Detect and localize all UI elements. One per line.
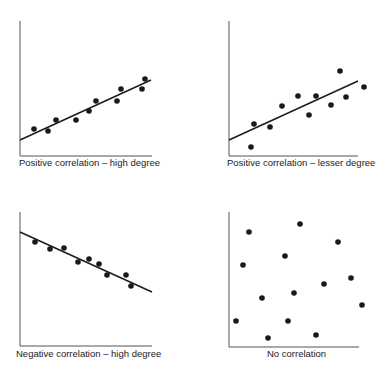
data-point: [321, 281, 327, 287]
data-point: [246, 229, 252, 235]
data-point: [337, 68, 343, 74]
panel-label-positive-lesser: Positive correlation – lesser degree: [227, 157, 375, 168]
data-point: [86, 256, 92, 262]
data-point: [139, 86, 145, 92]
data-point: [265, 335, 271, 341]
data-point: [279, 103, 285, 109]
data-point: [295, 93, 301, 99]
data-point: [297, 221, 303, 227]
panel-negative-high: [20, 212, 152, 346]
data-point: [123, 272, 129, 278]
data-point: [86, 108, 92, 114]
data-point: [251, 121, 257, 127]
data-point: [285, 318, 291, 324]
panel-positive-high: [20, 21, 152, 156]
data-point: [348, 275, 354, 281]
data-point: [45, 128, 51, 134]
panel-label-positive-high: Positive correlation – high degree: [19, 157, 160, 168]
data-point: [291, 290, 297, 296]
data-point: [233, 318, 239, 324]
data-point: [96, 261, 102, 267]
data-point: [313, 332, 319, 338]
data-point: [47, 246, 53, 252]
data-point: [93, 98, 99, 104]
data-point: [61, 245, 67, 251]
data-point: [335, 239, 341, 245]
data-point: [104, 272, 110, 278]
data-point: [313, 93, 319, 99]
data-point: [128, 283, 134, 289]
data-point: [359, 302, 365, 308]
data-point: [259, 295, 265, 301]
data-point: [361, 84, 367, 90]
data-point: [53, 117, 59, 123]
data-point: [118, 86, 124, 92]
data-point: [248, 144, 254, 150]
data-point: [240, 262, 246, 268]
data-point: [75, 259, 81, 265]
axes: [229, 21, 358, 156]
data-point: [32, 239, 38, 245]
panel-no-correlation: [229, 212, 365, 347]
correlation-scatter-plots: [0, 0, 384, 375]
panel-positive-lesser: [229, 21, 367, 156]
data-point: [114, 98, 120, 104]
data-point: [142, 76, 148, 82]
data-point: [282, 253, 288, 259]
data-point: [306, 112, 312, 118]
data-point: [73, 117, 79, 123]
data-point: [267, 124, 273, 130]
data-point: [31, 126, 37, 132]
panel-label-negative-high: Negative correlation – high degree: [16, 348, 161, 359]
data-point: [328, 102, 334, 108]
trend-line: [20, 80, 151, 140]
data-point: [343, 94, 349, 100]
panel-label-no-correlation: No correlation: [267, 348, 326, 359]
axes: [20, 212, 152, 346]
trend-line: [20, 232, 152, 292]
trend-line: [229, 81, 358, 140]
